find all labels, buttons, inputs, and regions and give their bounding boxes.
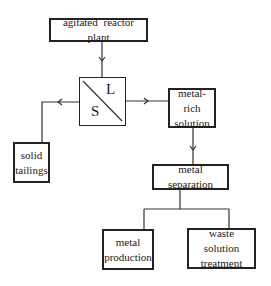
solid-tailings-label-line2: tailings [15,163,47,178]
waste-treatment-label-line1: waste solution [189,226,254,256]
agitated-reactor-plant-label: agitated reactor plant [51,15,146,45]
liquid-label: L [106,81,115,98]
solid-tailings-box: solid tailings [13,142,50,183]
metal-production-box: metal production [102,229,154,270]
waste-treatment-label-line2: treatment [201,256,243,271]
metal-separation-label: metal separation [154,162,227,192]
solid-tailings-label-line1: solid [21,148,42,163]
solid-label: S [91,103,99,120]
agitated-reactor-plant-box: agitated reactor plant [49,18,148,42]
metal-rich-solution-box: metal-rich solution [168,88,216,128]
metal-production-label-line2: production [104,250,152,265]
metal-rich-label-line1: metal-rich [170,86,214,116]
metal-rich-label-line2: solution [174,116,209,131]
waste-solution-treatment-box: waste solution treatment [187,228,256,269]
metal-separation-box: metal separation [152,164,229,190]
flow-diagram: agitated reactor plant L S metal-rich so… [0,0,271,286]
metal-production-label-line1: metal [116,235,140,250]
solid-liquid-separator-box [79,77,126,126]
